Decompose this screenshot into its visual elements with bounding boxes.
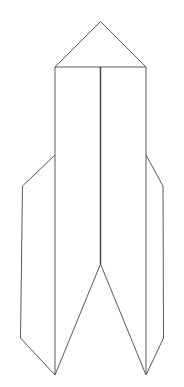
background <box>0 0 184 387</box>
drawing-canvas <box>0 0 184 387</box>
rocket-line-drawing <box>0 0 184 387</box>
